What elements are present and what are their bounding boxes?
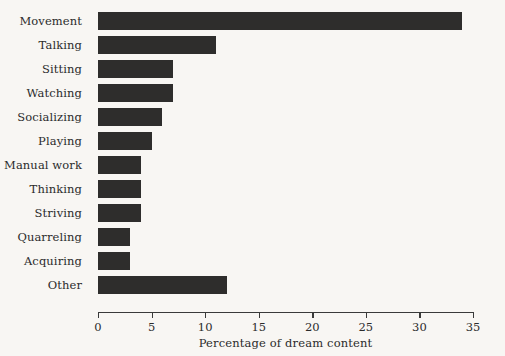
bar-row: Socializing (0, 108, 505, 126)
x-axis-tick-mark (366, 312, 367, 318)
x-axis-tick-label: 25 (346, 320, 386, 334)
bar-category-label: Watching (0, 87, 90, 100)
bar (98, 228, 130, 246)
bar-row: Watching (0, 84, 505, 102)
bar (98, 252, 130, 270)
bar-category-label: Thinking (0, 183, 90, 196)
bar-row: Other (0, 276, 505, 294)
bar-category-label: Sitting (0, 63, 90, 76)
bar-category-label: Socializing (0, 111, 90, 124)
bar-category-label: Manual work (0, 159, 90, 172)
x-axis-tick-mark (152, 312, 153, 318)
x-axis-tick-label: 30 (399, 320, 439, 334)
bar-row: Acquiring (0, 252, 505, 270)
x-axis-title: Percentage of dream content (98, 336, 473, 350)
bar (98, 12, 462, 30)
x-axis-tick-mark (312, 312, 313, 318)
bar-chart: MovementTalkingSittingWatchingSocializin… (0, 0, 505, 356)
bar-category-label: Movement (0, 15, 90, 28)
bar-category-label: Playing (0, 135, 90, 148)
bar-row: Playing (0, 132, 505, 150)
x-axis-tick-mark (473, 312, 474, 318)
bar-row: Quarreling (0, 228, 505, 246)
bar-row: Movement (0, 12, 505, 30)
bar-row: Talking (0, 36, 505, 54)
bar-row: Striving (0, 204, 505, 222)
x-axis-tick-label: 15 (239, 320, 279, 334)
bar (98, 204, 141, 222)
bar-row: Sitting (0, 60, 505, 78)
x-axis-tick-mark (259, 312, 260, 318)
x-axis-tick-label: 0 (78, 320, 118, 334)
x-axis-tick-label: 20 (292, 320, 332, 334)
bar (98, 84, 173, 102)
x-axis-tick-mark (98, 312, 99, 318)
plot-area: MovementTalkingSittingWatchingSocializin… (0, 0, 505, 356)
x-axis-tick-label: 35 (453, 320, 493, 334)
x-axis-tick-mark (205, 312, 206, 318)
bar (98, 108, 162, 126)
bar-row: Manual work (0, 156, 505, 174)
bar-category-label: Other (0, 279, 90, 292)
bar (98, 156, 141, 174)
bar (98, 132, 152, 150)
x-axis-tick-mark (419, 312, 420, 318)
x-axis-tick-label: 10 (185, 320, 225, 334)
x-axis-tick-label: 5 (132, 320, 172, 334)
x-axis-line (98, 312, 473, 313)
bar (98, 36, 216, 54)
bar-category-label: Acquiring (0, 255, 90, 268)
bar (98, 180, 141, 198)
bar-row: Thinking (0, 180, 505, 198)
bar-category-label: Talking (0, 39, 90, 52)
bar-category-label: Striving (0, 207, 90, 220)
bar-category-label: Quarreling (0, 231, 90, 244)
bar (98, 276, 227, 294)
bar (98, 60, 173, 78)
